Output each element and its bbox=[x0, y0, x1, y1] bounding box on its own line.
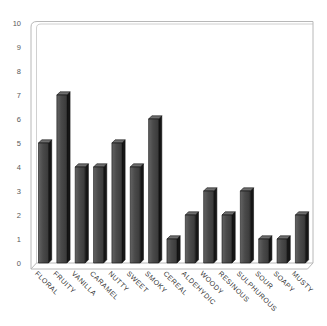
bar-nutty bbox=[112, 140, 125, 263]
bar-side-face bbox=[250, 188, 253, 263]
bar-front-face bbox=[167, 239, 177, 263]
bar-front-face bbox=[222, 215, 232, 263]
bar-front-face bbox=[57, 95, 67, 263]
wall-outer-edge bbox=[31, 22, 313, 270]
bar-side-face bbox=[49, 140, 52, 263]
bar-aldehydic bbox=[185, 212, 198, 263]
bar-fruity bbox=[57, 92, 70, 263]
bar-musty bbox=[295, 212, 308, 263]
y-axis-tick-label: 9 bbox=[17, 43, 21, 52]
bar-side-face bbox=[305, 212, 308, 263]
bar-vanilla bbox=[75, 164, 88, 263]
y-axis-tick-label: 5 bbox=[17, 139, 21, 148]
floor-right-diagonal bbox=[308, 263, 314, 269]
bar-cereal bbox=[167, 236, 180, 263]
bar-side-face bbox=[177, 236, 180, 263]
bar-front-face bbox=[295, 215, 305, 263]
chart-canvas: 012345678910FLORALFRUITYVANILLACARAMELNU… bbox=[0, 0, 327, 326]
bar-side-face bbox=[232, 212, 235, 263]
bar-side-face bbox=[104, 164, 107, 263]
y-axis-tick-label: 6 bbox=[17, 115, 21, 124]
bar-resinous bbox=[222, 212, 235, 263]
y-axis-tick-label: 10 bbox=[13, 19, 21, 28]
bar-floral bbox=[39, 140, 52, 263]
bar-front-face bbox=[240, 191, 250, 263]
bar-front-face bbox=[185, 215, 195, 263]
bar-front-face bbox=[149, 119, 159, 263]
bar-front-face bbox=[259, 239, 269, 263]
bar-front-face bbox=[130, 167, 140, 263]
bar-front-face bbox=[204, 191, 214, 263]
bar-sweet bbox=[130, 164, 143, 263]
y-axis-tick-label: 3 bbox=[17, 187, 21, 196]
y-axis-tick-label: 2 bbox=[17, 211, 21, 220]
bar-woody bbox=[204, 188, 217, 263]
y-axis-tick-label: 4 bbox=[17, 163, 21, 172]
bar-side-face bbox=[159, 116, 162, 263]
y-axis-tick-label: 1 bbox=[17, 235, 21, 244]
y-axis-tick-label: 0 bbox=[17, 259, 21, 268]
bar-sulphurous bbox=[240, 188, 253, 263]
y-axis-tick-label: 7 bbox=[17, 91, 21, 100]
bar-front-face bbox=[277, 239, 287, 263]
bar-side-face bbox=[195, 212, 198, 263]
bar-side-face bbox=[269, 236, 272, 263]
bar-side-face bbox=[85, 164, 88, 263]
bar-soapy bbox=[277, 236, 290, 263]
bar-sour bbox=[259, 236, 272, 263]
bar-side-face bbox=[67, 92, 70, 263]
bar-chart: 012345678910FLORALFRUITYVANILLACARAMELNU… bbox=[0, 0, 327, 326]
bar-smoky bbox=[149, 116, 162, 263]
bar-caramel bbox=[94, 164, 107, 263]
bar-side-face bbox=[287, 236, 290, 263]
bar-front-face bbox=[75, 167, 85, 263]
y-axis-tick-label: 8 bbox=[17, 67, 21, 76]
bar-front-face bbox=[94, 167, 104, 263]
bar-side-face bbox=[214, 188, 217, 263]
bar-side-face bbox=[122, 140, 125, 263]
bar-side-face bbox=[140, 164, 143, 263]
floor-left-diagonal bbox=[31, 263, 37, 269]
bar-front-face bbox=[112, 143, 122, 263]
bar-front-face bbox=[39, 143, 49, 263]
